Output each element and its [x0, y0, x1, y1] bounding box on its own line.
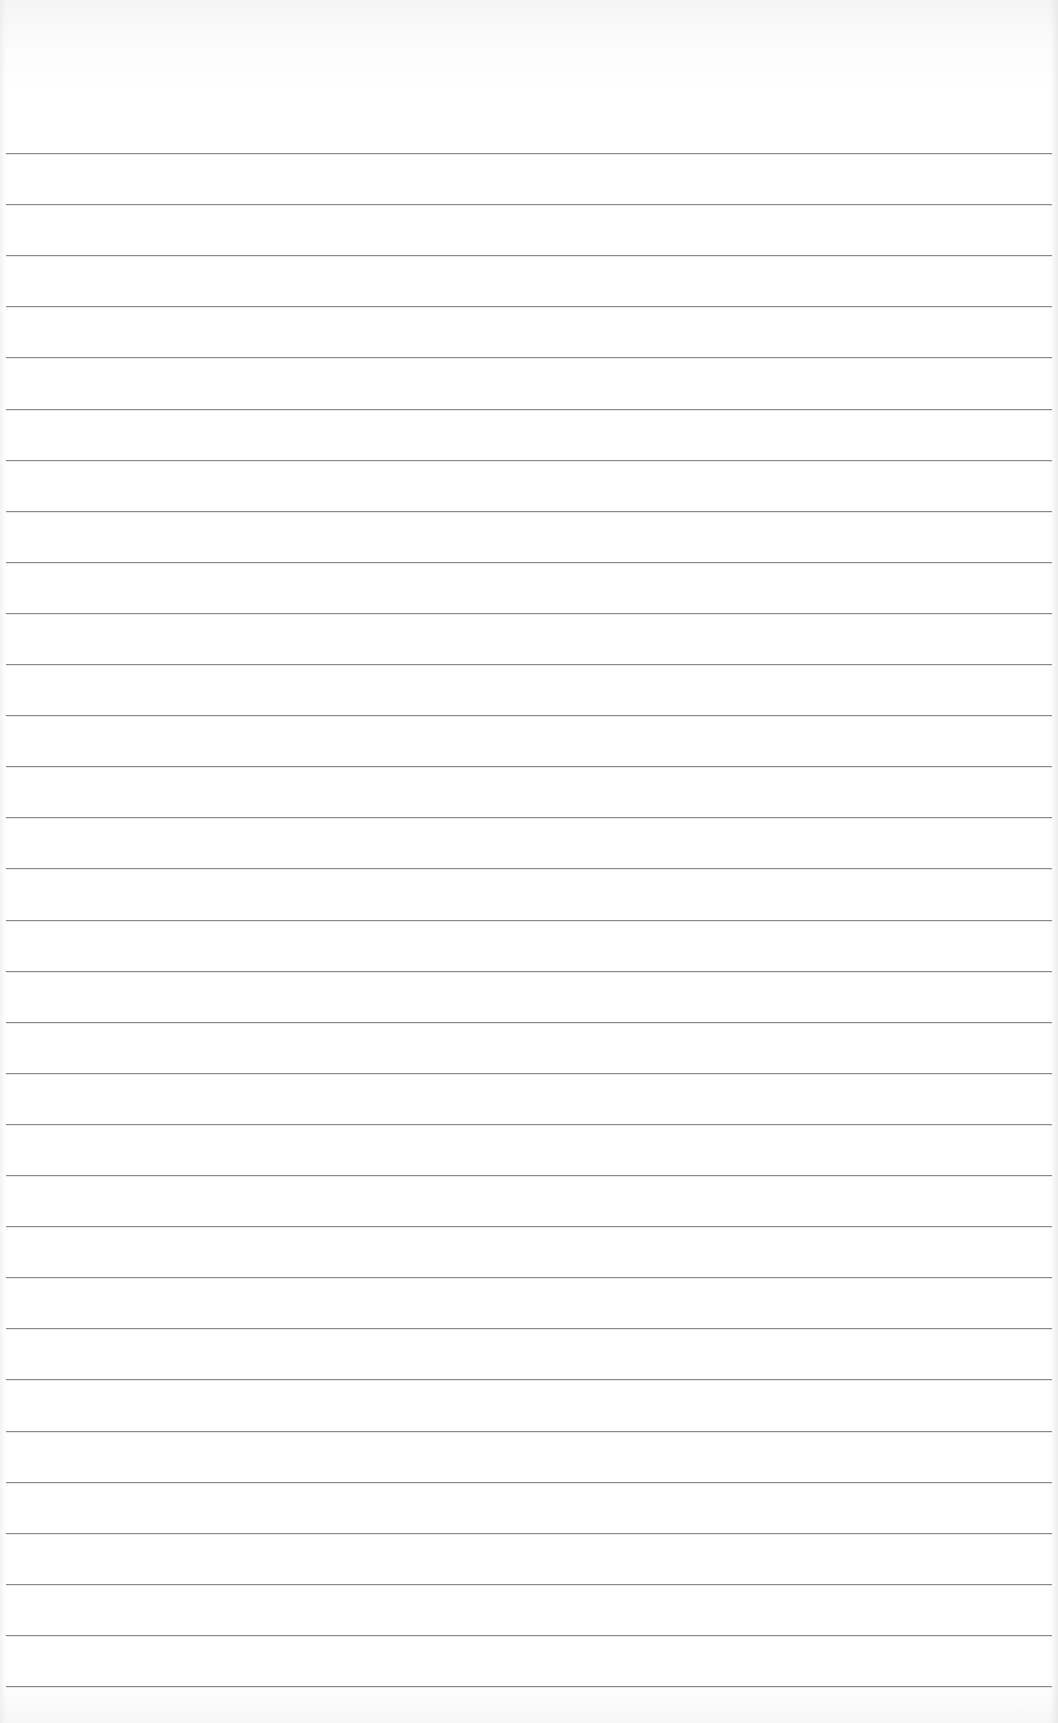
paper-right-edge — [1050, 0, 1058, 1723]
ruled-line — [6, 1379, 1052, 1380]
ruled-line — [6, 817, 1052, 818]
ruled-line — [6, 1635, 1052, 1636]
paper-left-edge — [0, 0, 6, 1723]
lined-paper-sheet — [0, 0, 1058, 1723]
ruled-line — [6, 153, 1052, 154]
ruled-line — [6, 1226, 1052, 1227]
ruled-line — [6, 1328, 1052, 1329]
ruled-line — [6, 1584, 1052, 1585]
ruled-line — [6, 306, 1052, 307]
ruled-line — [6, 409, 1052, 410]
ruled-line — [6, 357, 1052, 358]
ruled-line — [6, 1175, 1052, 1176]
ruled-line — [6, 920, 1052, 921]
ruled-line — [6, 1533, 1052, 1534]
ruled-line — [6, 1022, 1052, 1023]
ruled-line — [6, 562, 1052, 563]
ruled-line — [6, 1482, 1052, 1483]
ruled-line — [6, 664, 1052, 665]
ruled-line — [6, 971, 1052, 972]
ruled-line — [6, 204, 1052, 205]
ruled-line — [6, 460, 1052, 461]
ruled-line — [6, 715, 1052, 716]
ruled-line — [6, 1073, 1052, 1074]
ruled-line — [6, 613, 1052, 614]
ruled-line — [6, 1431, 1052, 1432]
ruled-line — [6, 1124, 1052, 1125]
ruled-line — [6, 1277, 1052, 1278]
ruled-line — [6, 766, 1052, 767]
ruled-line — [6, 868, 1052, 869]
ruled-line — [6, 511, 1052, 512]
ruled-line — [6, 1686, 1052, 1687]
ruled-line — [6, 255, 1052, 256]
